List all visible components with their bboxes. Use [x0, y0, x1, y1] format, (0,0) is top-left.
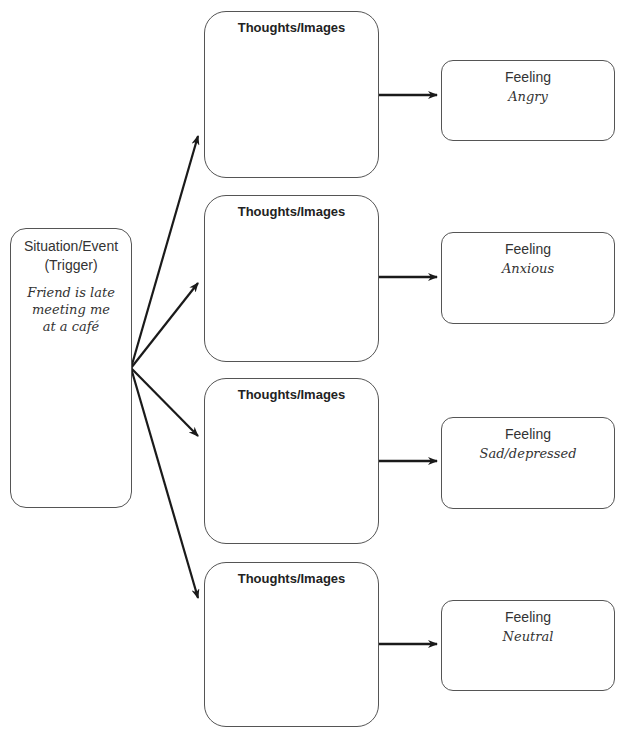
situation-title-line1: Situation/Event [11, 237, 131, 256]
situation-detail: Friend is late meeting me at a café [11, 284, 131, 335]
thoughts-box-4[interactable]: Thoughts/Images [204, 562, 379, 727]
thoughts-label: Thoughts/Images [205, 20, 378, 35]
feeling-box-3: Feeling Sad/depressed [441, 417, 615, 509]
feeling-label: Feeling [442, 241, 614, 257]
feeling-box-4: Feeling Neutral [441, 600, 615, 691]
thoughts-box-2[interactable]: Thoughts/Images [204, 195, 379, 362]
thoughts-label: Thoughts/Images [205, 204, 378, 219]
thoughts-label: Thoughts/Images [205, 387, 378, 402]
situation-detail-line1: Friend is late [11, 284, 131, 301]
feeling-value: Angry [442, 89, 614, 104]
arrow-to-thought-2 [131, 283, 198, 368]
thoughts-box-1[interactable]: Thoughts/Images [204, 11, 379, 178]
arrow-to-thought-4 [131, 368, 198, 598]
feeling-value: Anxious [442, 261, 614, 276]
feeling-label: Feeling [442, 609, 614, 625]
feeling-value: Sad/depressed [442, 446, 614, 461]
feeling-box-1: Feeling Angry [441, 60, 615, 141]
thoughts-label: Thoughts/Images [205, 571, 378, 586]
situation-event-box: Situation/Event (Trigger) Friend is late… [10, 228, 132, 508]
situation-title-line2: (Trigger) [11, 256, 131, 275]
situation-detail-line3: at a café [11, 318, 131, 335]
feeling-label: Feeling [442, 69, 614, 85]
feeling-label: Feeling [442, 426, 614, 442]
feeling-box-2: Feeling Anxious [441, 232, 615, 324]
arrow-to-thought-1 [131, 136, 198, 368]
situation-detail-line2: meeting me [11, 301, 131, 318]
arrow-to-thought-3 [131, 368, 198, 436]
situation-title: Situation/Event (Trigger) [11, 237, 131, 275]
feeling-value: Neutral [442, 629, 614, 644]
thoughts-box-3[interactable]: Thoughts/Images [204, 378, 379, 544]
